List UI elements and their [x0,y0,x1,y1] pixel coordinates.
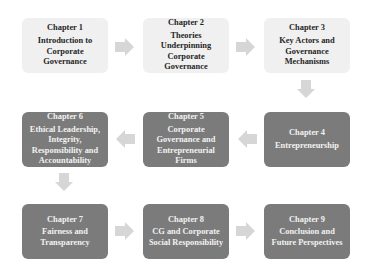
chapter-number: Chapter 9 [289,215,325,226]
chapter-3-box: Chapter 3 Key Actors and Governance Mech… [264,18,350,73]
chapter-title: Conclusion and Future Perspectives [266,227,348,248]
chapter-title: Theories Underpinning Corporate Governan… [145,31,227,73]
chapter-number: Chapter 6 [47,112,83,123]
chapter-2-box: Chapter 2 Theories Underpinning Corporat… [143,18,229,73]
chapter-number: Chapter 7 [47,215,83,226]
chapter-8-box: Chapter 8 CG and Corporate Social Respon… [143,204,229,259]
chapter-number: Chapter 2 [168,18,204,29]
arrow-down-icon [55,173,73,191]
arrow-right-icon [236,222,255,240]
arrow-left-icon [116,130,135,148]
chapter-title: Corporate Governance and Entrepreneurial… [146,125,226,167]
chapter-7-box: Chapter 7 Fairness and Transparency [22,204,108,259]
chapter-number: Chapter 1 [47,23,83,34]
chapter-title: CG and Corporate Social Responsibility [145,227,227,248]
chapter-title: Ethical Leadership, Integrity, Responsib… [23,125,107,167]
chapter-4-box: Chapter 4 Entrepreneurship [264,112,350,167]
chapter-5-box: Chapter 5 Corporate Governance and Entre… [143,112,229,167]
arrow-right-icon [236,38,255,56]
chapter-1-box: Chapter 1 Introduction to Corporate Gove… [22,18,108,73]
chapter-title: Entrepreneurship [275,141,339,152]
chapter-number: Chapter 5 [168,112,204,123]
arrow-down-icon [297,80,315,98]
arrow-right-icon [115,222,134,240]
chapter-number: Chapter 3 [289,23,325,34]
chapter-9-box: Chapter 9 Conclusion and Future Perspect… [264,204,350,259]
chapter-6-box: Chapter 6 Ethical Leadership, Integrity,… [22,112,108,167]
chapter-title: Fairness and Transparency [40,227,90,248]
chapter-number: Chapter 4 [289,128,325,139]
chapter-title: Key Actors and Governance Mechanisms [276,36,338,68]
arrow-right-icon [115,38,134,56]
arrow-left-icon [238,130,257,148]
chapter-title: Introduction to Corporate Governance [25,36,105,68]
chapter-number: Chapter 8 [168,215,204,226]
